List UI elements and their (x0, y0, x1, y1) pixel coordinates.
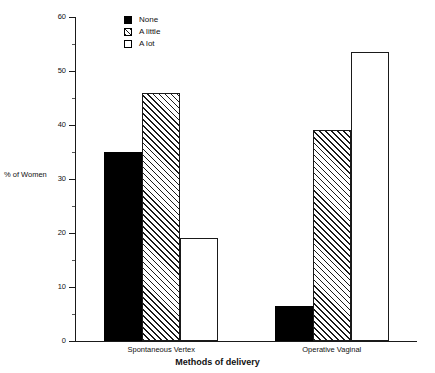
y-tick-major (69, 125, 75, 126)
plot-area (76, 17, 417, 341)
legend-swatch-icon (124, 40, 132, 48)
y-tick-label: 10 (42, 283, 66, 291)
x-axis-line (76, 341, 417, 342)
bar (313, 130, 351, 341)
x-category-label: Operative Vaginal (262, 345, 402, 354)
y-tick-label: 40 (42, 121, 66, 129)
legend-swatch-icon (124, 28, 132, 36)
y-axis-ticks: 0102030405060 (0, 0, 76, 373)
legend-item: None (124, 14, 160, 25)
y-tick-minor (72, 206, 75, 207)
bar (275, 306, 313, 341)
legend-item: A lot (124, 38, 160, 49)
bar (104, 152, 142, 341)
legend-label: A little (139, 28, 160, 36)
y-tick-major (69, 233, 75, 234)
x-axis-title: Methods of delivery (0, 357, 435, 367)
bar (180, 238, 218, 341)
bar (351, 52, 389, 341)
y-tick-label: 0 (42, 337, 66, 345)
y-tick-minor (72, 98, 75, 99)
y-tick-minor (72, 314, 75, 315)
y-tick-major (69, 287, 75, 288)
y-tick-label: 20 (42, 229, 66, 237)
legend-label: None (139, 16, 158, 24)
chart-figure: % of Women 0102030405060 Spontaneous Ver… (0, 0, 435, 373)
y-tick-minor (72, 152, 75, 153)
y-tick-major (69, 71, 75, 72)
y-tick-major (69, 341, 75, 342)
bar (142, 93, 180, 341)
legend-swatch-icon (124, 16, 132, 24)
y-tick-minor (72, 44, 75, 45)
legend-item: A little (124, 26, 160, 37)
y-tick-major (69, 17, 75, 18)
legend: NoneA littleA lot (124, 14, 160, 50)
y-tick-label: 60 (42, 13, 66, 21)
y-tick-major (69, 179, 75, 180)
legend-label: A lot (139, 40, 155, 48)
y-tick-label: 30 (42, 175, 66, 183)
x-category-label: Spontaneous Vertex (91, 345, 231, 354)
y-tick-minor (72, 260, 75, 261)
y-tick-label: 50 (42, 67, 66, 75)
